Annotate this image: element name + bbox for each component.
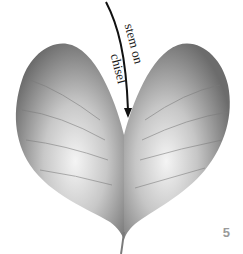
- step-number: 5: [223, 225, 230, 240]
- leaf-left-lobe: [16, 43, 124, 240]
- leaf-illustration: stem on chisel 5: [0, 0, 243, 254]
- leaf-graphic: [0, 0, 243, 254]
